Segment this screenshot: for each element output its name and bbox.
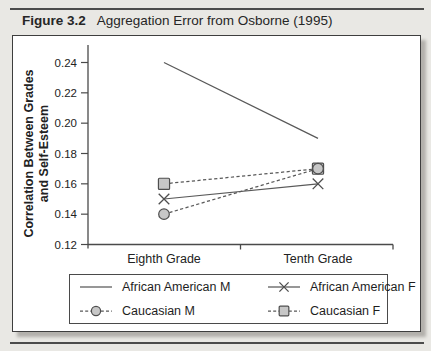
svg-text:0.22: 0.22 xyxy=(55,87,77,99)
legend-label: Caucasian F xyxy=(310,304,380,318)
figure-caption: Figure 3.2Aggregation Error from Osborne… xyxy=(22,13,332,28)
chart-legend: African American M African American F Ca… xyxy=(69,274,388,324)
svg-text:0.20: 0.20 xyxy=(55,117,77,129)
legend-item-caucasian-f: Caucasian F xyxy=(267,304,416,318)
legend-sample-solid-line xyxy=(79,280,113,294)
chart-panel: Correlation Between Gradesand Self-Estee… xyxy=(12,35,421,332)
figure-number: Figure 3.2 xyxy=(22,13,86,28)
legend-label: Caucasian M xyxy=(122,304,195,318)
y-axis-title: Correlation Between Gradesand Self-Estee… xyxy=(22,69,51,237)
y-tick-labels: 0.240.220.200.180.160.140.12 xyxy=(55,57,88,251)
svg-text:0.14: 0.14 xyxy=(55,208,78,220)
svg-text:Correlation Between Grades: Correlation Between Grades xyxy=(22,69,36,237)
legend-sample-circle-marker xyxy=(79,304,113,318)
legend-item-caucasian-m: Caucasian M xyxy=(79,304,267,318)
bottom-rule xyxy=(10,342,424,344)
legend-sample-square-marker xyxy=(267,304,301,318)
svg-text:0.24: 0.24 xyxy=(55,57,78,69)
svg-text:Tenth Grade: Tenth Grade xyxy=(284,252,353,266)
series-african-american-m xyxy=(164,63,318,139)
legend-label: African American M xyxy=(122,280,230,294)
legend-label: African American F xyxy=(310,280,416,294)
svg-text:Eighth Grade: Eighth Grade xyxy=(127,252,201,266)
top-rule xyxy=(10,8,424,10)
x-axis-labels: Eighth GradeTenth Grade xyxy=(127,252,352,266)
axes xyxy=(88,45,393,250)
legend-item-african-american-m: African American M xyxy=(79,280,267,294)
figure-title: Aggregation Error from Osborne (1995) xyxy=(97,13,333,28)
svg-text:0.16: 0.16 xyxy=(55,178,77,190)
svg-text:0.12: 0.12 xyxy=(55,239,77,251)
svg-text:0.18: 0.18 xyxy=(55,148,77,160)
svg-text:and Self-Esteem: and Self-Esteem xyxy=(37,105,51,202)
series-caucasian-m xyxy=(159,163,324,219)
legend-item-african-american-f: African American F xyxy=(267,280,416,294)
legend-sample-x-marker xyxy=(267,280,301,294)
